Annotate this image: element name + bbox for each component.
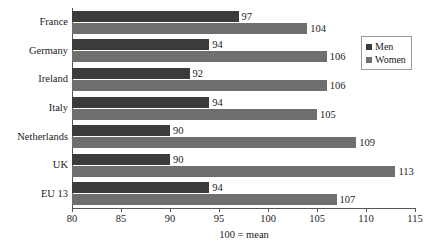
bar-uk-women [72, 166, 395, 177]
legend-item-men: Men [366, 40, 406, 53]
category-label-italy: Italy [0, 102, 68, 114]
bar-italy-men [72, 97, 209, 108]
category-label-ireland: Ireland [0, 73, 68, 85]
bar-value-label: 90 [173, 154, 184, 165]
x-axis-line [72, 208, 416, 209]
bar-value-label: 94 [212, 39, 223, 50]
category-axis-labels: FranceGermanyIrelandItalyNetherlandsUKEU… [0, 8, 68, 208]
bar-value-label: 90 [173, 125, 184, 136]
legend-swatch-men-icon [366, 44, 372, 50]
bar-france-men [72, 11, 239, 22]
x-tick-label: 90 [165, 213, 176, 225]
bar-value-label: 104 [310, 23, 326, 34]
x-tick-label: 95 [214, 213, 225, 225]
bar-value-label: 109 [359, 137, 375, 148]
x-tick [72, 208, 73, 212]
bar-ireland-women [72, 80, 327, 91]
x-tick-label: 110 [358, 213, 373, 225]
bar-value-label: 97 [242, 11, 253, 22]
x-tick [268, 208, 269, 212]
bar-value-label: 106 [330, 80, 346, 91]
x-tick [219, 208, 220, 212]
bar-eu-13-men [72, 182, 209, 193]
bar-france-women [72, 23, 307, 34]
bar-ireland-men [72, 68, 190, 79]
bar-germany-women [72, 51, 327, 62]
category-label-netherlands: Netherlands [0, 131, 68, 143]
bar-chart: FranceGermanyIrelandItalyNetherlandsUKEU… [0, 0, 434, 252]
x-tick [170, 208, 171, 212]
bar-value-label: 94 [212, 182, 223, 193]
x-tick [121, 208, 122, 212]
x-tick [415, 208, 416, 212]
x-tick-label: 85 [116, 213, 127, 225]
bar-value-label: 113 [398, 166, 413, 177]
bar-netherlands-women [72, 137, 356, 148]
category-label-eu-13: EU 13 [0, 188, 68, 200]
bar-eu-13-women [72, 194, 337, 205]
x-axis-title: 100 = mean [72, 229, 416, 240]
bar-value-label: 106 [330, 51, 346, 62]
legend-label-women: Women [375, 53, 406, 66]
legend-swatch-women-icon [366, 57, 372, 63]
bar-value-label: 105 [320, 109, 336, 120]
bar-value-label: 107 [340, 194, 356, 205]
x-tick-label: 100 [260, 213, 276, 225]
bar-italy-women [72, 109, 317, 120]
category-label-germany: Germany [0, 45, 68, 57]
x-tick [317, 208, 318, 212]
x-tick-label: 80 [67, 213, 78, 225]
chart-legend: Men Women [361, 36, 412, 70]
x-tick [366, 208, 367, 212]
category-label-france: France [0, 16, 68, 28]
bar-germany-men [72, 39, 209, 50]
bar-uk-men [72, 154, 170, 165]
x-tick-label: 105 [309, 213, 325, 225]
bar-value-label: 92 [193, 68, 204, 79]
legend-label-men: Men [375, 40, 393, 53]
bar-netherlands-men [72, 125, 170, 136]
bar-value-label: 94 [212, 97, 223, 108]
x-tick-label: 115 [407, 213, 422, 225]
legend-item-women: Women [366, 53, 406, 66]
category-label-uk: UK [0, 159, 68, 171]
